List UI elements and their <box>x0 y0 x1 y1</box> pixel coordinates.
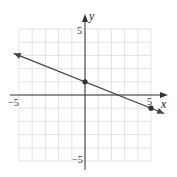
y-tick-min: −5 <box>72 155 83 165</box>
y-axis-label: y <box>89 10 94 22</box>
data-point <box>82 79 87 84</box>
plotted-line <box>14 53 164 114</box>
y-axis-arrow-icon <box>82 14 88 22</box>
coordinate-plane <box>0 0 177 177</box>
x-tick-min: −5 <box>8 98 19 108</box>
y-tick-max: 5 <box>77 26 82 36</box>
x-axis-label: x <box>161 98 166 110</box>
x-tick-max: 5 <box>147 97 152 107</box>
line-arrow-icon <box>14 53 22 59</box>
